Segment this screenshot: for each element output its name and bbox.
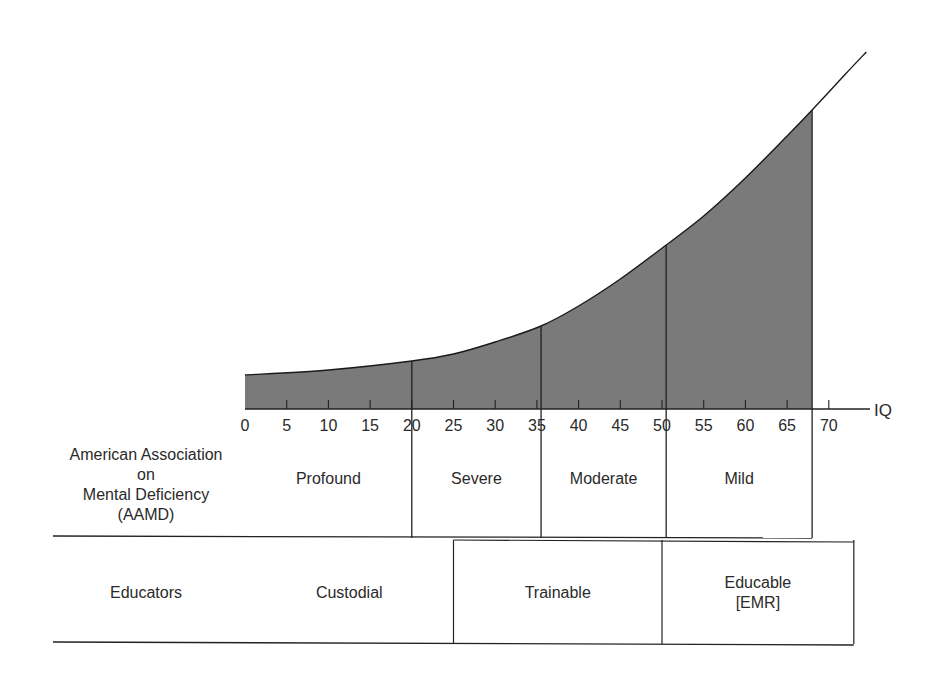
x-tick-label: 25	[445, 417, 463, 434]
x-tick-label: 20	[403, 417, 421, 434]
category-cell-mild: Mild	[724, 470, 753, 487]
x-tick-label: 40	[570, 417, 588, 434]
x-tick-label: 60	[737, 417, 755, 434]
category-cell-moderate: Moderate	[570, 470, 638, 487]
aamd-row-header: on	[137, 466, 155, 483]
x-tick-label: 65	[778, 417, 796, 434]
iq-classification-figure: 0510152025303540455055606570 IQ American…	[0, 0, 925, 685]
x-axis-tick-labels: 0510152025303540455055606570	[241, 417, 838, 434]
aamd-row-bottom-border	[53, 536, 812, 538]
aamd-row-header: American Association	[70, 446, 223, 463]
category-cell-educable: Educable	[725, 574, 792, 591]
x-tick-label: 50	[653, 417, 671, 434]
x-tick-label: 30	[486, 417, 504, 434]
aamd-row-header: Mental Deficiency	[83, 486, 209, 503]
aamd-row-header: (AAMD)	[118, 506, 175, 523]
category-cell-custodial: Custodial	[316, 584, 383, 601]
x-tick-label: 0	[241, 417, 250, 434]
category-cell-profound: Profound	[296, 470, 361, 487]
x-tick-label: 15	[361, 417, 379, 434]
classification-table: American AssociationonMental Deficiency(…	[53, 446, 854, 646]
category-cell-educable: [EMR]	[736, 594, 780, 611]
shaded-area	[245, 110, 812, 409]
x-tick-label: 35	[528, 417, 546, 434]
x-tick-label: 70	[820, 417, 838, 434]
x-axis-title: IQ	[874, 401, 892, 420]
iq-classification-chart: 0510152025303540455055606570 IQ American…	[0, 0, 925, 685]
educators-row-top-border	[454, 540, 854, 542]
category-cell-trainable: Trainable	[525, 584, 591, 601]
x-tick-label: 5	[282, 417, 291, 434]
shaded-distribution-area	[245, 110, 812, 409]
x-tick-label: 45	[611, 417, 629, 434]
x-tick-label: 55	[695, 417, 713, 434]
x-tick-label: 10	[320, 417, 338, 434]
educators-row-header: Educators	[110, 584, 182, 601]
category-cell-severe: Severe	[451, 470, 502, 487]
